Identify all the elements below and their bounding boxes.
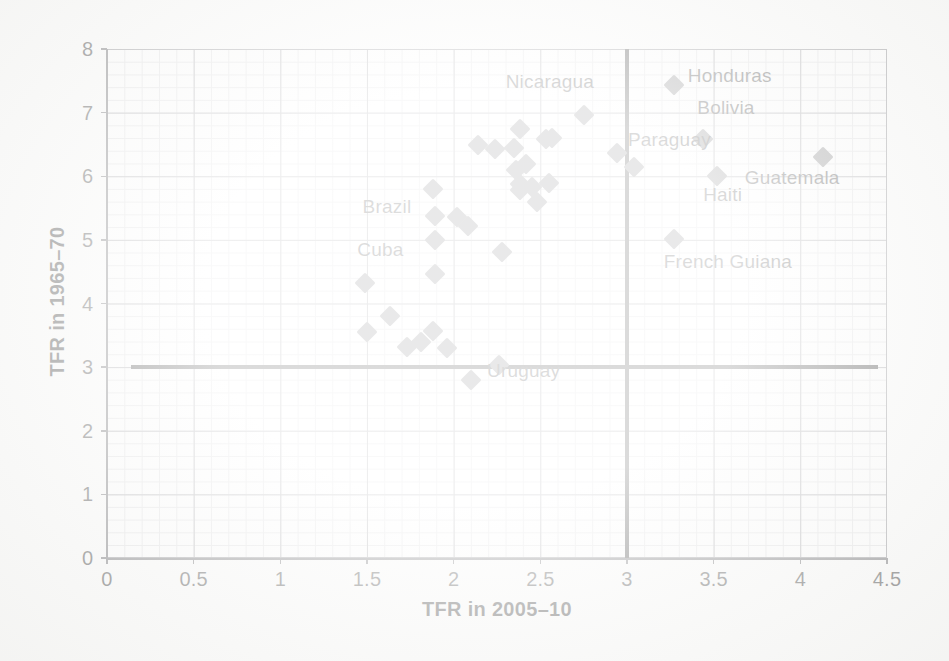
y-tick (101, 557, 107, 559)
y-tick (101, 239, 107, 241)
point-label: Guatemala (745, 167, 840, 189)
reference-line-vertical (625, 49, 629, 558)
x-tick (540, 558, 542, 564)
x-tick-label: 1.5 (353, 568, 381, 591)
x-tick (800, 558, 802, 564)
x-tick (626, 558, 628, 564)
y-tick (101, 366, 107, 368)
point-label: Paraguay (628, 129, 711, 151)
y-tick (101, 430, 107, 432)
point-label: Brazil (363, 196, 412, 218)
point-label: Cuba (357, 239, 403, 261)
y-tick (101, 494, 107, 496)
x-tick-label: 1 (275, 568, 286, 591)
y-tick (101, 303, 107, 305)
x-tick (886, 558, 888, 564)
x-axis-line (107, 558, 888, 560)
point-label: French Guiana (664, 251, 792, 273)
point-label: Bolivia (697, 97, 754, 119)
major-gridlines (107, 49, 887, 558)
x-tick (193, 558, 195, 564)
y-tick (101, 48, 107, 50)
x-tick-label: 0 (101, 568, 112, 591)
x-tick-label: 0.5 (179, 568, 207, 591)
x-tick (280, 558, 282, 564)
scatter-plot-figure: 00.511.522.533.544.5 012345678 CubaBrazi… (0, 0, 949, 661)
point-label: Honduras (688, 65, 772, 87)
x-tick (106, 558, 108, 564)
y-tick (101, 112, 107, 114)
x-tick-label: 3 (621, 568, 632, 591)
x-tick (453, 558, 455, 564)
plot-area (107, 49, 887, 558)
x-tick-label: 2 (448, 568, 459, 591)
x-tick (713, 558, 715, 564)
x-tick-label: 4 (795, 568, 806, 591)
point-label: Uruguay (487, 360, 560, 382)
x-tick-label: 4.5 (873, 568, 901, 591)
point-label: Haiti (703, 184, 742, 206)
y-axis-label: TFR in 1965–70 (46, 52, 69, 552)
x-axis-label: TFR in 2005–10 (107, 598, 887, 621)
y-tick (101, 176, 107, 178)
x-tick-label: 3.5 (699, 568, 727, 591)
point-label: Nicaragua (506, 71, 594, 93)
x-tick-label: 2.5 (526, 568, 554, 591)
x-tick (366, 558, 368, 564)
